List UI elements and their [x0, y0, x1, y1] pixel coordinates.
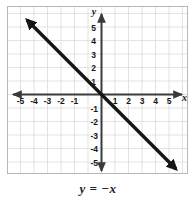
x-tick-label: 3 — [140, 96, 145, 106]
x-tick-label: 5 — [167, 96, 172, 106]
graph-figure: y x -5 -4 -3 -2 -1 1 2 3 4 5 5 4 3 2 1 -… — [0, 0, 196, 204]
y-tick-label: -5 — [90, 158, 98, 168]
x-tick-label: -4 — [30, 96, 38, 106]
y-tick-label: -2 — [90, 117, 98, 127]
x-tick-label: -2 — [57, 96, 65, 106]
x-tick-label: 1 — [113, 96, 118, 106]
y-tick-label: -4 — [90, 144, 98, 154]
y-tick-label: 1 — [91, 77, 96, 87]
coordinate-plane-graph: y x -5 -4 -3 -2 -1 1 2 3 4 5 5 4 3 2 1 -… — [8, 7, 187, 173]
y-tick-label: 5 — [91, 23, 96, 33]
y-tick-label: 2 — [91, 63, 96, 73]
x-tick-label: 4 — [153, 96, 158, 106]
x-tick-label: -1 — [71, 96, 79, 106]
y-tick-label: 3 — [91, 50, 96, 60]
y-tick-label: 4 — [91, 36, 96, 46]
x-tick-label: 2 — [126, 96, 131, 106]
x-tick-label: -3 — [44, 96, 52, 106]
y-tick-label: -1 — [90, 104, 98, 114]
equation-caption: y = −x — [0, 181, 196, 197]
plot-frame: y x -5 -4 -3 -2 -1 1 2 3 4 5 5 4 3 2 1 -… — [7, 6, 188, 174]
x-tick-label: -5 — [17, 96, 25, 106]
x-axis-label: x — [181, 92, 187, 103]
y-tick-label: -3 — [90, 131, 98, 141]
y-axis-label: y — [91, 7, 97, 17]
